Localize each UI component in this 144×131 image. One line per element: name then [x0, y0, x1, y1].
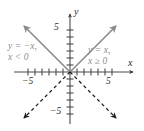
equation-label-right: y = x, x ≥ 0: [88, 45, 111, 66]
equation-label-left-equation: y = −x,: [8, 41, 37, 52]
x-tick-label-negative-five: −5: [22, 76, 33, 86]
x-axis-label: x: [128, 57, 132, 68]
y-axis-label: y: [74, 6, 78, 17]
equation-label-left: y = −x, x < 0: [8, 41, 37, 62]
absolute-value-graph-figure: y = −x, x < 0 y = x, x ≥ 0 x y −5 5 5 −5: [0, 0, 144, 131]
coordinate-plane-svg: [0, 0, 144, 131]
equation-label-left-condition: x < 0: [8, 52, 37, 63]
y-tick-label-positive-five: 5: [54, 22, 59, 32]
equation-label-right-condition: x ≥ 0: [88, 56, 111, 67]
x-tick-label-positive-five: 5: [106, 76, 111, 86]
y-tick-label-negative-five: −5: [50, 106, 61, 116]
equation-label-right-equation: y = x,: [88, 45, 111, 56]
